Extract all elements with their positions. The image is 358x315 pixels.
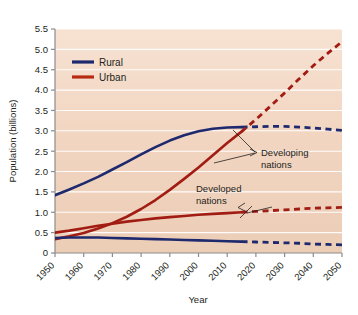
y-tick-label: 0: [43, 247, 48, 258]
y-tick-label: 2.5: [35, 146, 48, 157]
y-tick-label: 5.5: [35, 23, 48, 34]
legend-label-rural: Rural: [99, 57, 123, 68]
developed-label-line1: Developed: [196, 183, 241, 194]
y-tick-label: 3.0: [35, 125, 48, 136]
y-tick-label: 0.5: [35, 227, 48, 238]
y-tick-label: 4.5: [35, 64, 48, 75]
y-axis-title: Population (billions): [7, 100, 18, 183]
x-axis-title: Year: [188, 294, 207, 305]
y-tick-label: 3.5: [35, 105, 48, 116]
y-tick-label: 5.0: [35, 44, 48, 55]
y-tick-label: 1.0: [35, 207, 48, 218]
legend-label-urban: Urban: [99, 72, 126, 83]
developing-label-line1: Developing: [261, 147, 309, 158]
y-tick-label: 4.0: [35, 84, 48, 95]
chart-figure: 00.51.01.52.02.53.03.54.04.55.05.5 19501…: [0, 0, 358, 315]
y-tick-label: 1.5: [35, 186, 48, 197]
developing-label-line2: nations: [261, 159, 292, 170]
population-line-chart: 00.51.01.52.02.53.03.54.04.55.05.5 19501…: [0, 0, 358, 315]
y-tick-label: 2.0: [35, 166, 48, 177]
developed-label-line2: nations: [196, 195, 227, 206]
